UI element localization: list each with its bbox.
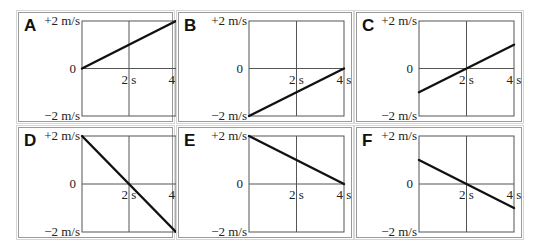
y-label-top: +2 m/s [381,128,417,143]
y-label-bottom: −2 m/s [381,224,417,239]
x-label-2s: 2 s [289,72,304,87]
y-label-bottom: −2 m/s [44,224,80,239]
x-label-2s: 2 s [459,187,474,202]
graph-panel-e: E+2 m/s0−2 m/s2 s4 s [178,127,352,238]
x-label-4s: 4 s [507,72,522,87]
y-label-zero: 0 [407,176,414,191]
x-label-4s: 4 s [507,187,522,202]
y-label-top: +2 m/s [381,13,417,28]
y-label-top: +2 m/s [44,128,80,143]
graph-panel-f: F+2 m/s0−2 m/s2 s4 s [356,127,522,238]
x-label-2s: 2 s [122,72,137,87]
y-label-zero: 0 [407,61,414,76]
y-label-zero: 0 [70,61,77,76]
y-label-top: +2 m/s [211,13,247,28]
y-label-top: +2 m/s [44,13,80,28]
graph-panel-c: C+2 m/s0−2 m/s2 s4 s [356,12,522,122]
y-label-top: +2 m/s [211,128,247,143]
graph-panel-b: B+2 m/s0−2 m/s2 s4 s [178,12,352,122]
graph-panel-a: A+2 m/s0−2 m/s2 s4 s [18,12,173,122]
y-label-bottom: −2 m/s [44,108,80,123]
y-label-zero: 0 [237,61,244,76]
y-label-bottom: −2 m/s [381,108,417,123]
graph-panel-d: D+2 m/s0−2 m/s2 s4 s [18,127,173,238]
graph-plot: +2 m/s0−2 m/s2 s4 s [19,128,174,239]
y-label-zero: 0 [70,176,77,191]
y-label-bottom: −2 m/s [211,224,247,239]
graph-plot: +2 m/s0−2 m/s2 s4 s [179,13,353,123]
graph-plot: +2 m/s0−2 m/s2 s4 s [179,128,353,239]
x-label-4s: 4 s [337,187,352,202]
y-label-bottom: −2 m/s [211,108,247,123]
graph-plot: +2 m/s0−2 m/s2 s4 s [357,128,523,239]
x-label-2s: 2 s [289,187,304,202]
x-label-4s: 4 s [337,72,352,87]
graph-plot: +2 m/s0−2 m/s2 s4 s [357,13,523,123]
graph-plot: +2 m/s0−2 m/s2 s4 s [19,13,174,123]
x-label-2s: 2 s [459,72,474,87]
y-label-zero: 0 [237,176,244,191]
